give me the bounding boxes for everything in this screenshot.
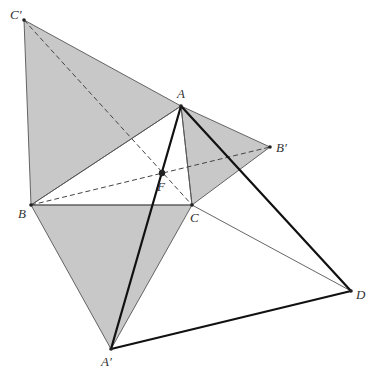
- label-C: C: [190, 210, 199, 225]
- segment-C-D: [192, 205, 351, 291]
- point-A: [179, 104, 183, 108]
- thick-segment-A_prime-D: [111, 291, 351, 349]
- point-D: [349, 289, 353, 293]
- label-A: A: [176, 86, 185, 101]
- point-C: [190, 203, 194, 207]
- label-F: F: [156, 179, 166, 194]
- triangle-ABC-prime: [24, 20, 181, 205]
- triangle-BCA-prime: [31, 205, 192, 349]
- label-D: D: [355, 287, 366, 302]
- shaded-triangles: [24, 20, 270, 349]
- point-F: [159, 170, 165, 176]
- point-B: [29, 203, 33, 207]
- point-C_prime: [22, 18, 26, 22]
- geometry-diagram: A B C A′ B′ C′ D F: [0, 0, 378, 381]
- point-A_prime: [109, 347, 113, 351]
- label-A-prime: A′: [100, 354, 112, 369]
- label-C-prime: C′: [10, 7, 22, 22]
- point-B_prime: [268, 145, 272, 149]
- label-B-prime: B′: [276, 140, 287, 155]
- thick-segment-A-D: [181, 106, 351, 291]
- label-B: B: [18, 206, 26, 221]
